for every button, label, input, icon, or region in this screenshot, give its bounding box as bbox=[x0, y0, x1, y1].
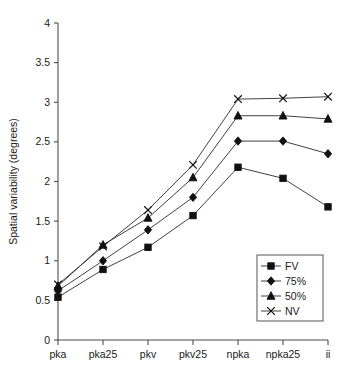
x-tick-label-ii: ii bbox=[326, 348, 331, 360]
x-tick-label-npka: npka bbox=[227, 348, 250, 360]
legend-label-75%: 75% bbox=[285, 275, 306, 287]
legend-label-50%: 50% bbox=[285, 290, 306, 302]
y-axis-title: Spatial variability (degrees) bbox=[7, 118, 19, 245]
data-point-75%-ii bbox=[324, 150, 331, 158]
y-tick-label-0: 0 bbox=[44, 334, 50, 346]
x-tick-label-pka: pka bbox=[50, 348, 67, 360]
x-tick-label-pkv: pkv bbox=[140, 348, 157, 360]
y-tick-label-3: 3 bbox=[44, 96, 50, 108]
legend-label-FV: FV bbox=[285, 260, 298, 272]
y-tick-label-0.5: 0.5 bbox=[35, 294, 50, 306]
data-point-FV-npka bbox=[235, 164, 241, 170]
legend-label-NV: NV bbox=[285, 305, 300, 317]
x-tick-label-npka25: npka25 bbox=[266, 348, 301, 360]
x-tick-label-pka25: pka25 bbox=[89, 348, 118, 360]
legend-marker-square-icon bbox=[268, 263, 274, 269]
y-tick-label-2.5: 2.5 bbox=[35, 135, 50, 147]
figure-container: 00.511.522.533.54pkapka25pkvpkv25npkanpk… bbox=[0, 0, 359, 380]
data-point-50%-pkv bbox=[144, 214, 152, 222]
caption-smudge bbox=[0, 364, 359, 380]
data-point-50%-npka bbox=[234, 111, 242, 119]
data-point-FV-pkv25 bbox=[190, 212, 196, 218]
y-tick-label-2: 2 bbox=[44, 175, 50, 187]
data-point-75%-pkv bbox=[144, 226, 151, 234]
data-point-FV-pkv bbox=[145, 244, 151, 250]
data-point-FV-pka25 bbox=[100, 266, 106, 272]
x-tick-label-pkv25: pkv25 bbox=[179, 348, 207, 360]
data-point-FV-ii bbox=[325, 204, 331, 210]
data-point-75%-pka25 bbox=[99, 257, 106, 265]
y-tick-label-3.5: 3.5 bbox=[35, 56, 50, 68]
line-chart: 00.511.522.533.54pkapka25pkvpkv25npkanpk… bbox=[0, 0, 359, 380]
y-tick-label-1: 1 bbox=[44, 254, 50, 266]
data-point-75%-npka25 bbox=[279, 137, 286, 145]
data-point-50%-npka25 bbox=[279, 111, 287, 119]
y-tick-label-4: 4 bbox=[44, 17, 50, 29]
data-point-FV-npka25 bbox=[280, 175, 286, 181]
y-tick-label-1.5: 1.5 bbox=[35, 215, 50, 227]
